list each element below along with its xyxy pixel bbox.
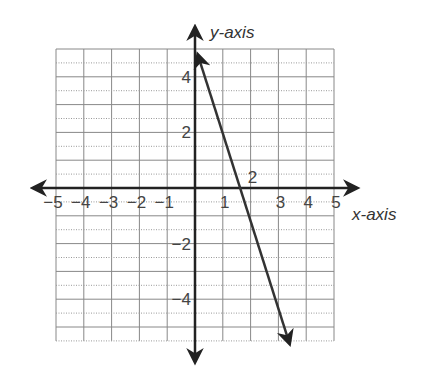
x-tick-label: 3 — [276, 193, 285, 212]
y-tick-label: 2 — [182, 123, 191, 142]
x-tick-label: 1 — [220, 193, 229, 212]
x-tick-label: 4 — [303, 193, 312, 212]
x-tick-label: −3 — [99, 193, 118, 212]
x-tick-label: 2 — [248, 168, 257, 187]
x-axis-label: x-axis — [351, 205, 397, 224]
x-tick-label: −4 — [71, 193, 90, 212]
y-tick-label: −4 — [172, 290, 191, 309]
coordinate-plane: −5−4−3−2−11234542−2−4 y-axis x-axis — [0, 0, 429, 376]
x-tick-label: −5 — [43, 193, 62, 212]
x-tick-label: −2 — [127, 193, 146, 212]
y-tick-label: 4 — [182, 68, 191, 87]
x-tick-label: −1 — [155, 193, 174, 212]
y-tick-label: −2 — [172, 235, 191, 254]
y-axis-label: y-axis — [209, 23, 255, 42]
x-tick-label: 5 — [331, 193, 340, 212]
